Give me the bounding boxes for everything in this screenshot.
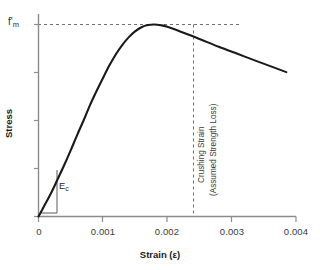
y-axis-title: Stress xyxy=(3,101,14,147)
x-tick-label-1: 0.001 xyxy=(80,226,126,237)
modulus-label-subscript: c xyxy=(65,185,69,192)
x-axis-title: Strain (ε) xyxy=(0,249,320,260)
x-tick-label-3: 0.003 xyxy=(209,226,255,237)
x-tick-label-0: 0 xyxy=(24,226,54,237)
modulus-label: Ec xyxy=(59,180,69,192)
stress-strain-chart: f'm Ec Crushing Strain (Assumed Strength… xyxy=(0,0,320,270)
assumed-strength-loss-annotation: (Assumed Strength Loss) xyxy=(209,104,218,196)
x-tick-label-2: 0.002 xyxy=(144,226,190,237)
crushing-strain-annotation: Crushing Strain xyxy=(197,127,206,183)
peak-stress-label: f'm xyxy=(8,16,19,29)
peak-stress-label-subscript: m xyxy=(13,20,19,29)
stress-strain-curve xyxy=(39,24,287,216)
x-tick-label-4: 0.004 xyxy=(273,226,319,237)
